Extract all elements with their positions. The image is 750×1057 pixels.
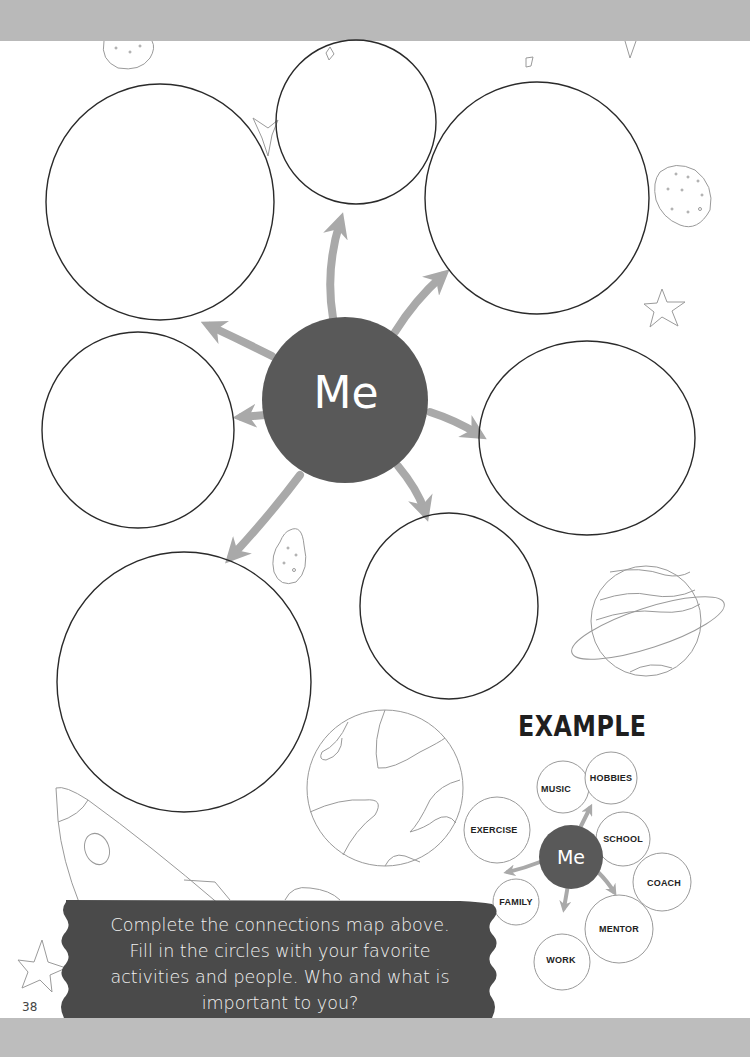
example-label-exercise: EXERCISE [470, 825, 517, 835]
example-label-school: SCHOOL [603, 834, 643, 844]
star-icon [253, 118, 278, 156]
arrow-right [430, 412, 478, 434]
scan-bottom-edge [0, 1018, 750, 1057]
example-label-mentor: MENTOR [599, 924, 639, 934]
page-number: 38 [22, 1000, 37, 1014]
instructions-line: important to you? [70, 990, 490, 1016]
star-icon [18, 940, 66, 992]
sparkle-icon [526, 57, 533, 67]
arrow-left [242, 415, 265, 417]
sparkle-icon [326, 47, 334, 60]
asteroid-icon [285, 888, 340, 901]
asteroid-icon [103, 41, 153, 69]
star-icon [625, 41, 636, 58]
empty-circle-top-left[interactable] [46, 84, 274, 320]
instructions-text: Complete the connections map above. Fill… [70, 912, 490, 1016]
empty-circle-middle-left[interactable] [42, 332, 234, 528]
example-label-hobbies: HOBBIES [590, 773, 632, 783]
example-label-family: FAMILY [499, 897, 532, 907]
instructions-line: Complete the connections map above. [70, 912, 490, 938]
arrow-up [330, 222, 340, 318]
example-title: EXAMPLE [518, 710, 647, 743]
star-icon [644, 289, 685, 327]
empty-circle-top-center[interactable] [276, 40, 436, 204]
connections-map-artwork [0, 0, 750, 1057]
example-label-coach: COACH [647, 878, 681, 888]
asteroid-icon [273, 529, 306, 584]
example-me-label: Me [557, 846, 585, 868]
arrow-upper-left [210, 326, 272, 356]
saturn-planet-icon [566, 566, 731, 676]
instructions-line: Fill in the circles with your favorite [70, 938, 490, 964]
empty-circle-middle-right[interactable] [479, 341, 695, 535]
me-center-label: Me [313, 367, 378, 418]
empty-circle-bottom-left[interactable] [57, 552, 311, 812]
earth-planet-icon [307, 710, 463, 866]
example-map [464, 752, 691, 990]
arrow-upper-right [395, 276, 442, 332]
instructions-line: activities and people. Who and what is [70, 964, 490, 990]
arrow-lower-left [232, 475, 300, 556]
empty-circle-top-right[interactable] [425, 82, 649, 314]
empty-circle-lower-center[interactable] [360, 513, 538, 699]
example-label-work: WORK [546, 955, 575, 965]
arrow-lower-right [398, 466, 425, 512]
example-label-music: MUSIC [541, 784, 571, 794]
